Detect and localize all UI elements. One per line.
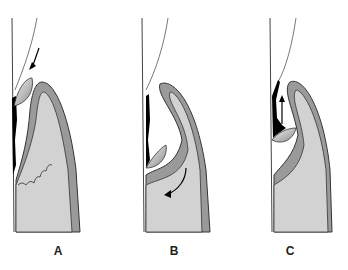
instrument-shank [146,18,168,90]
instrument-shank [278,18,296,82]
panel-c: C [232,0,348,270]
curette-blade [14,78,32,106]
arrow-insert-head-icon [29,62,36,70]
panel-c-illustration [232,0,348,270]
panel-a: A [0,0,116,270]
tooth-surface-line [270,18,272,232]
panel-label: B [116,244,232,258]
panel-b: B [116,0,232,270]
panel-b-illustration [116,0,232,270]
instrument-shank [15,18,37,90]
panel-label: C [232,244,348,258]
arrow-remove-head-icon [279,95,285,102]
panel-label: A [0,244,116,258]
panel-a-illustration [0,0,116,270]
calculus-deposit [272,80,286,138]
calculus-deposit [12,96,17,175]
calculus-deposit [146,94,150,168]
tooth-surface-line [142,18,144,232]
